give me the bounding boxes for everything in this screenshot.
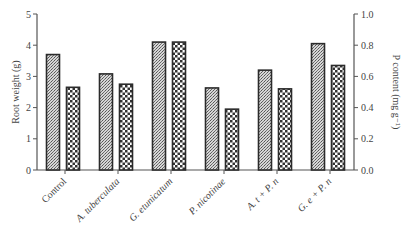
bar-stipple <box>259 70 272 170</box>
right-tick-label: 0.0 <box>361 165 374 176</box>
bar-checker <box>120 84 133 170</box>
bar-checker <box>173 42 186 170</box>
category-label: A. tuberculata <box>73 176 122 225</box>
left-tick-label: 5 <box>26 9 31 20</box>
category-label: Control <box>39 175 69 205</box>
right-tick-label: 1.0 <box>361 9 374 20</box>
left-axis-title: Root weight (g) <box>10 60 22 123</box>
bar-chart: 012345 Root weight (g) 0.00.20.40.60.81.… <box>0 0 412 241</box>
left-tick-label: 3 <box>26 71 31 82</box>
bar-stipple <box>312 44 325 170</box>
category-label: A. t + P. n <box>243 176 280 213</box>
right-tick-label: 0.8 <box>361 40 374 51</box>
category-label: P. nicotinae <box>186 175 228 217</box>
bar-checker <box>279 89 292 170</box>
left-tick-label: 2 <box>26 102 31 113</box>
left-tick-label: 1 <box>26 133 31 144</box>
right-axis-title: P content (mg g⁻¹) <box>390 55 402 130</box>
bar-checker <box>67 87 80 170</box>
right-tick-label: 0.2 <box>361 133 374 144</box>
right-tick-label: 0.6 <box>361 71 374 82</box>
x-axis <box>37 170 354 174</box>
bar-checker <box>332 65 345 170</box>
category-labels: ControlA. tuberculataG. etunicatumP. nic… <box>39 175 333 224</box>
right-axis: 0.00.20.40.60.81.0 <box>354 9 374 176</box>
bars <box>47 42 345 170</box>
bar-stipple <box>153 42 166 170</box>
left-axis: 012345 <box>26 9 37 176</box>
bar-stipple <box>100 74 113 170</box>
bar-checker <box>226 109 239 170</box>
category-label: G. etunicatum <box>127 176 175 224</box>
category-label: G. e + P. n <box>295 176 333 214</box>
right-tick-label: 0.4 <box>361 102 374 113</box>
left-tick-label: 4 <box>26 40 31 51</box>
bar-stipple <box>47 55 60 170</box>
left-tick-label: 0 <box>26 165 31 176</box>
bar-stipple <box>206 88 219 170</box>
